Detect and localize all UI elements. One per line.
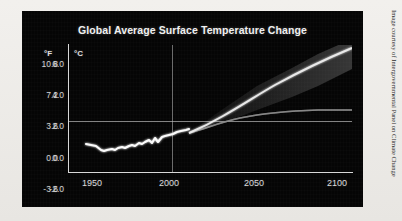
x-tick-2100: 2100	[327, 178, 347, 188]
series-observed-historical	[86, 129, 189, 151]
y-tick-c-6-0: 6.0	[34, 59, 64, 69]
x-tick-1950: 1950	[82, 178, 102, 188]
chart-title: Global Average Surface Temperature Chang…	[22, 24, 363, 36]
fahrenheit-unit-label: °F	[44, 49, 52, 58]
image-credit-text: Image courtesy of Intergovernmental Pane…	[390, 10, 398, 210]
chart-panel: Global Average Surface Temperature Chang…	[22, 11, 363, 207]
plot-area	[69, 45, 352, 172]
chart-page: Global Average Surface Temperature Chang…	[0, 0, 402, 221]
x-tick-2050: 2050	[244, 178, 264, 188]
chart-curves	[69, 45, 352, 172]
x-tick-2000: 2000	[159, 178, 179, 188]
image-credit: Image courtesy of Intergovernmental Pane…	[387, 8, 401, 213]
y-tick-c-minus-2-0: -2.0	[34, 184, 64, 194]
y-tick-c-2-0: 2.0	[34, 121, 64, 131]
y-tick-c-4-0: 4.0	[34, 90, 64, 100]
x-axis-line	[68, 172, 353, 173]
y-tick-c-0-0: 0.0	[34, 153, 64, 163]
